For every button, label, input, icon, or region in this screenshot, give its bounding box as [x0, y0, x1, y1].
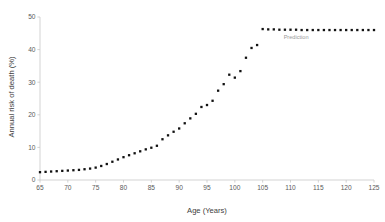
- data-point: [78, 169, 80, 171]
- data-point: [89, 167, 91, 169]
- data-point: [217, 90, 219, 92]
- data-point: [72, 169, 74, 171]
- data-point: [284, 29, 286, 31]
- data-point: [161, 138, 163, 140]
- data-point: [50, 170, 52, 172]
- data-point: [139, 150, 141, 152]
- data-point: [122, 156, 124, 158]
- y-tick-label: 20: [28, 111, 36, 118]
- x-tick-label: 90: [175, 184, 183, 191]
- data-point: [117, 158, 119, 160]
- x-tick-label: 120: [341, 184, 352, 191]
- chart-plot-area: 01020304050 6570758085909510010511011512…: [0, 0, 385, 222]
- x-tick-label: 110: [285, 184, 296, 191]
- x-tick-label: 95: [203, 184, 211, 191]
- x-axis-title: Age (Years): [187, 206, 227, 215]
- data-point: [339, 29, 341, 31]
- data-point: [83, 168, 85, 170]
- data-point: [184, 122, 186, 124]
- data-point: [178, 127, 180, 129]
- data-point: [262, 28, 264, 30]
- x-tick-label: 75: [92, 184, 100, 191]
- y-tick-label: 50: [28, 13, 36, 20]
- data-point: [234, 76, 236, 78]
- data-point: [223, 83, 225, 85]
- x-tick-label: 70: [64, 184, 72, 191]
- x-tick-label: 80: [120, 184, 128, 191]
- data-point: [206, 104, 208, 106]
- y-tick-label: 10: [28, 144, 36, 151]
- data-point: [211, 100, 213, 102]
- data-point: [133, 152, 135, 154]
- y-tick-label: 40: [28, 46, 36, 53]
- y-tick-label: 30: [28, 79, 36, 86]
- data-point: [367, 29, 369, 31]
- data-point: [61, 170, 63, 172]
- data-point: [351, 29, 353, 31]
- data-point: [56, 170, 58, 172]
- data-point: [189, 117, 191, 119]
- data-point: [44, 171, 46, 173]
- y-tick-label: 0: [32, 176, 36, 183]
- data-point: [323, 29, 325, 31]
- data-point: [267, 28, 269, 30]
- data-point: [289, 29, 291, 31]
- data-point: [156, 145, 158, 147]
- data-point: [373, 29, 375, 31]
- chart-annotations: Prediction: [284, 34, 309, 40]
- chart-background: [0, 0, 385, 222]
- data-point: [362, 29, 364, 31]
- data-point: [245, 57, 247, 59]
- data-point: [195, 113, 197, 115]
- data-point: [67, 169, 69, 171]
- prediction-annotation: Prediction: [284, 34, 309, 40]
- data-point: [167, 134, 169, 136]
- x-tick-label: 115: [313, 184, 324, 191]
- data-point: [317, 29, 319, 31]
- chart-figure: 01020304050 6570758085909510010511011512…: [0, 0, 385, 222]
- data-point: [300, 29, 302, 31]
- data-point: [150, 147, 152, 149]
- data-point: [306, 29, 308, 31]
- data-point: [345, 29, 347, 31]
- data-point: [239, 70, 241, 72]
- data-point: [273, 28, 275, 30]
- data-point: [106, 163, 108, 165]
- y-axis-title: Annual risk of death (%): [7, 56, 16, 138]
- data-point: [128, 154, 130, 156]
- data-point: [95, 166, 97, 168]
- data-point: [200, 106, 202, 108]
- data-point: [334, 29, 336, 31]
- data-point: [100, 165, 102, 167]
- data-point: [278, 29, 280, 31]
- x-tick-label: 125: [368, 184, 379, 191]
- data-point: [111, 161, 113, 163]
- data-point: [356, 29, 358, 31]
- x-tick-label: 100: [229, 184, 240, 191]
- data-point: [172, 131, 174, 133]
- x-tick-label: 65: [36, 184, 44, 191]
- data-point: [328, 29, 330, 31]
- data-point: [250, 47, 252, 49]
- data-point: [145, 148, 147, 150]
- data-point: [312, 29, 314, 31]
- data-point: [256, 44, 258, 46]
- x-tick-label: 85: [148, 184, 156, 191]
- data-point: [39, 171, 41, 173]
- data-point: [228, 74, 230, 76]
- data-point: [295, 29, 297, 31]
- x-tick-label: 105: [257, 184, 268, 191]
